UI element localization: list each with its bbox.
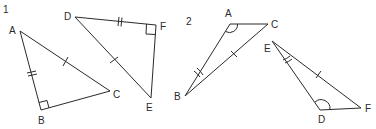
angle-arc-d [315,100,330,110]
figure-2-number: 2 [186,16,192,27]
vertex-label-f: F [365,103,371,114]
figure-1-triangle-abc: A B C [9,25,120,126]
figure-1-number: 1 [3,4,9,15]
vertex-label-c: C [271,19,278,30]
vertex-label-a: A [225,8,232,19]
vertex-label-d: D [318,114,325,125]
vertex-label-b: B [38,115,45,126]
vertex-label-d: D [64,11,71,22]
congruent-triangles-diagram: 1 A B C D F E 2 [0,0,376,129]
vertex-label-e: E [264,43,271,54]
triangle-abc-outline [20,31,110,110]
triangle-def-outline [272,41,361,110]
angle-double-arc-e [283,56,292,63]
vertex-label-e: E [146,102,153,113]
triangle-def-outline [75,17,156,98]
single-tick-ac [63,57,68,66]
figure-2-triangle-def: E D F [264,41,371,125]
triangle-abc-outline [185,24,268,96]
vertex-label-b: B [174,91,181,102]
vertex-label-c: C [113,89,120,100]
double-tick-ab [27,71,37,76]
right-angle-mark-f [146,24,156,35]
vertex-label-f: F [160,21,166,32]
vertex-label-a: A [9,25,16,36]
